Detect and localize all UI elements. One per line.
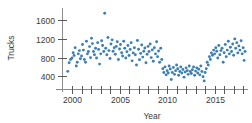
data-point [95,57,98,60]
data-point [101,44,104,47]
data-point [231,43,234,46]
data-point [72,51,75,54]
data-point [172,66,175,69]
data-point [78,49,81,52]
x-tick-label: 2015 [206,95,225,105]
data-point [88,45,91,48]
data-point [121,55,124,58]
data-point [180,72,183,75]
data-point [158,61,161,64]
data-point [129,48,132,51]
chart-canvas: 40080012001600 Trucks 2000200520102015 Y… [0,0,252,123]
data-point [224,43,227,46]
data-point [80,55,83,58]
data-point [77,52,80,55]
data-point [213,52,216,55]
data-point [117,58,120,61]
data-point [119,43,122,46]
data-point [151,48,154,51]
data-point [124,57,127,60]
data-point [93,53,96,56]
data-point [105,53,108,56]
data-point [109,57,112,60]
data-point [116,40,119,43]
x-axis-tick-labels: 2000200520102015 [63,95,225,105]
data-point [138,58,141,61]
data-point [244,50,247,53]
data-point [190,72,193,75]
data-point [83,58,86,61]
y-axis-title: Trucks [6,35,16,60]
data-point [148,50,151,53]
data-point [92,50,95,53]
data-point [214,46,217,49]
data-point [110,43,113,46]
data-point [197,68,200,71]
data-point [149,43,152,46]
data-point [152,60,155,63]
data-point [133,46,136,49]
data-point [236,51,239,54]
data-point [183,76,186,79]
y-tick-label: 1200 [36,35,55,45]
data-point [232,54,235,57]
data-point [193,74,196,77]
data-point [156,55,159,58]
data-point [181,68,184,71]
data-point [157,50,160,53]
data-point [205,67,208,70]
data-point [112,50,115,53]
data-point [120,51,123,54]
data-point [164,65,167,68]
data-point [96,41,99,44]
data-point [126,44,129,47]
data-point [228,52,231,55]
data-point [66,70,69,73]
data-point [94,47,97,50]
y-tick-label: 800 [41,54,55,64]
data-point [159,47,162,50]
data-point [212,49,215,52]
data-point [179,65,182,68]
data-point [146,53,149,56]
data-point [139,52,142,55]
data-point [85,40,88,43]
data-point [238,49,241,52]
x-tick-label: 2000 [63,95,82,105]
y-axis-group: 40080012001600 Trucks [6,8,67,92]
data-point [207,64,210,67]
data-point [175,64,178,67]
data-point [123,47,126,50]
data-point [122,40,125,43]
data-point [137,48,140,51]
data-point [90,37,93,40]
data-point [202,75,205,78]
y-tick-label: 1600 [36,16,55,26]
data-point [154,52,157,55]
data-point [216,57,219,60]
data-point [162,71,165,74]
data-point [135,64,138,67]
data-point [218,53,221,56]
data-point [134,53,137,56]
data-point [222,61,225,64]
data-point [74,46,77,49]
data-point [192,65,195,68]
data-point [107,49,110,52]
data-point [145,61,148,64]
data-point [136,39,139,42]
data-point [188,65,191,68]
data-point [142,50,145,53]
data-point [115,45,118,48]
data-point [235,41,238,44]
x-tick-label: 2005 [111,95,130,105]
data-point [107,36,110,39]
data-point [170,78,173,81]
data-point [191,68,194,71]
data-point [168,65,171,68]
data-point [155,40,158,43]
data-point [167,72,170,75]
data-point [237,44,240,47]
data-point [185,66,188,69]
data-point [233,37,236,40]
